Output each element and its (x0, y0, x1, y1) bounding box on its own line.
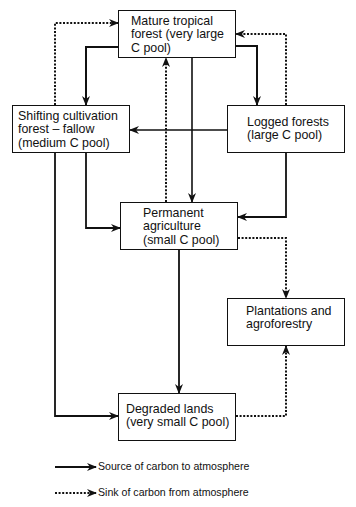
node-label-line: agroforestry (246, 318, 344, 331)
node-label-line: C pool) (131, 42, 235, 55)
legend-source-label: Source of carbon to atmosphere (98, 460, 249, 472)
node-shifting-cultivation: Shifting cultivation forest – fallow (me… (12, 105, 130, 153)
node-label-line: forest – fallow (18, 123, 129, 136)
node-label-line: Logged forests (247, 116, 344, 129)
node-label-line: Mature tropical (131, 15, 235, 28)
node-permanent-agriculture: Permanent agriculture (small C pool) (120, 202, 238, 250)
edge-shifting-to-permanent (86, 153, 120, 228)
edge-logged-to-permanent (238, 153, 286, 217)
edge-mature-to-shifting (86, 47, 118, 105)
node-label-line: (large C pool) (247, 129, 344, 142)
edge-logged-to-mature (236, 34, 286, 105)
edge-mature-to-logged (236, 46, 257, 105)
node-label-line: Degraded lands (126, 403, 235, 416)
node-label-line: agriculture (143, 220, 237, 233)
node-label-line: (medium C pool) (18, 137, 129, 150)
node-logged-forests: Logged forests (large C pool) (227, 105, 345, 153)
legend-sink-label: Sink of carbon from atmosphere (98, 486, 249, 498)
node-label-line: (very small C pool) (126, 416, 235, 429)
edge-permanent-to-plantations (238, 238, 286, 298)
node-label-line: forest (very large (131, 28, 235, 41)
node-degraded-lands: Degraded lands (very small C pool) (118, 393, 236, 441)
node-mature-tropical-forest: Mature tropical forest (very large C poo… (118, 10, 236, 58)
node-label-line: Permanent (143, 207, 237, 220)
node-label-line: Plantations and (246, 305, 344, 318)
node-label-line: (small C pool) (143, 234, 237, 247)
node-plantations-agroforestry: Plantations and agroforestry (227, 298, 345, 346)
edge-degraded-to-plantations (236, 346, 286, 416)
node-label-line: Shifting cultivation (18, 110, 129, 123)
